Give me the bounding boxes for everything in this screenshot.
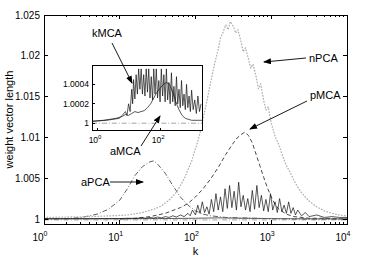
y-tick-label: 1.025: [15, 10, 40, 21]
inset-y-tick-label: 1.0004: [63, 79, 89, 89]
annotation-label-aMCA: aMCA: [110, 145, 141, 157]
annotation-label-pMCA: pMCA: [310, 89, 341, 101]
x-tick-label: 104: [335, 230, 350, 243]
inset-y-tick-label: 1.0002: [63, 99, 89, 109]
annotation-arrow-pMCA: [250, 101, 307, 129]
annotation-label-kMCA: kMCA: [92, 27, 123, 39]
inset-plot: 11.00021.0004100102: [63, 65, 202, 145]
x-tick-label: 103: [260, 230, 275, 243]
y-axis-label: weight vector length: [3, 71, 15, 170]
x-tick-label: 100: [32, 230, 47, 243]
x-tick-label: 101: [108, 230, 123, 243]
annotation-arrow-nPCA: [264, 58, 306, 62]
inset-x-tick-label: 102: [152, 134, 165, 145]
y-tick-label: 1.005: [15, 173, 40, 184]
y-tick-label: 1: [34, 214, 40, 225]
y-tick-label: 1.01: [21, 132, 41, 143]
annotation-label-aPCA: aPCA: [81, 176, 110, 188]
inset-x-tick-label: 100: [89, 134, 102, 145]
main-series-pMCA-curve: [120, 132, 347, 219]
inset-y-tick-label: 1: [84, 118, 89, 128]
y-tick-label: 1.02: [21, 50, 41, 61]
y-tick-label: 1.015: [15, 91, 40, 102]
main-series-aPCA-curve: [44, 161, 347, 219]
x-axis-label: k: [193, 245, 199, 257]
annotation-label-nPCA: nPCA: [309, 52, 338, 64]
chart-canvas: 11.0051.011.0151.021.025100101102103104k…: [0, 0, 370, 275]
x-tick-label: 102: [184, 230, 199, 243]
figure-weight-vector-length-plot: 11.0051.011.0151.021.025100101102103104k…: [0, 0, 370, 275]
